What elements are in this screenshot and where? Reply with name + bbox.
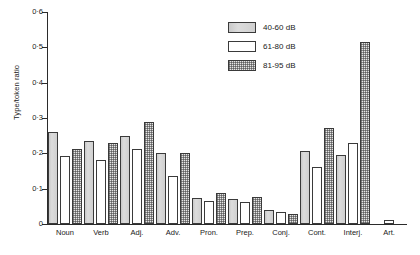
bar (384, 220, 395, 224)
legend-swatch (228, 41, 256, 52)
bar-group (336, 12, 371, 224)
bar (84, 141, 95, 224)
y-axis-tick-label: 0·1 (32, 184, 43, 194)
x-axis-tick-label: Cont. (299, 228, 335, 237)
y-axis-label: Type/token ratio (12, 33, 21, 153)
bar (264, 210, 275, 224)
y-axis-tick-label: 0·5 (32, 42, 43, 52)
bar-group (156, 12, 191, 224)
y-axis-tick-label: 0·3 (32, 113, 43, 123)
legend-swatch (228, 22, 256, 33)
bar (300, 151, 311, 224)
bar (120, 136, 131, 224)
bar (252, 197, 263, 224)
bar (216, 193, 227, 224)
x-axis-tick-label: Adj. (119, 228, 155, 237)
x-axis-tick-label: Noun (47, 228, 83, 237)
x-axis-tick-label: Interj. (335, 228, 371, 237)
chart-figure: Type/token ratio 00·10·20·30·40·50·6 Nou… (0, 0, 420, 255)
bar (360, 42, 371, 224)
chart-legend: 40-60 dB61-80 dB81-95 dB (228, 19, 295, 76)
y-axis-tick-label: 0 (39, 219, 43, 229)
legend-label: 40-60 dB (263, 23, 295, 32)
bar (204, 201, 215, 224)
bar (60, 156, 71, 224)
x-axis-line (47, 224, 407, 225)
bar-group (120, 12, 155, 224)
y-axis-tick-label: 0·4 (32, 78, 43, 88)
bar (132, 149, 143, 224)
y-axis-tick-label: 0·6 (32, 7, 43, 17)
bar-group (48, 12, 83, 224)
bar-group (192, 12, 227, 224)
legend-label: 81-95 dB (263, 61, 295, 70)
legend-item: 40-60 dB (228, 19, 295, 35)
bar (144, 122, 155, 224)
bar (108, 143, 119, 224)
bar (312, 167, 323, 224)
bar-group (372, 12, 407, 224)
legend-item: 61-80 dB (228, 38, 295, 54)
bar (228, 199, 239, 224)
bar (240, 202, 251, 224)
x-axis-tick-label: Conj. (263, 228, 299, 237)
bar (288, 214, 299, 224)
plot-area: 00·10·20·30·40·50·6 NounVerbAdj.Adv.Pron… (47, 12, 407, 224)
bar (348, 143, 359, 224)
bar (336, 155, 347, 224)
x-axis-tick-label: Art. (371, 228, 407, 237)
bar-group (300, 12, 335, 224)
bar (168, 176, 179, 224)
bar (192, 198, 203, 225)
x-axis-tick-label: Prep. (227, 228, 263, 237)
legend-label: 61-80 dB (263, 42, 295, 51)
bar (180, 153, 191, 224)
bar (48, 132, 59, 224)
x-axis-tick-label: Verb (83, 228, 119, 237)
bar (276, 212, 287, 224)
bar (72, 149, 83, 224)
bar (96, 160, 107, 224)
y-axis-tick-label: 0·2 (32, 148, 43, 158)
legend-swatch (228, 60, 256, 71)
legend-item: 81-95 dB (228, 57, 295, 73)
x-axis-tick-label: Adv. (155, 228, 191, 237)
bar (324, 128, 335, 224)
bar-group (84, 12, 119, 224)
bar (156, 153, 167, 224)
x-axis-tick-label: Pron. (191, 228, 227, 237)
